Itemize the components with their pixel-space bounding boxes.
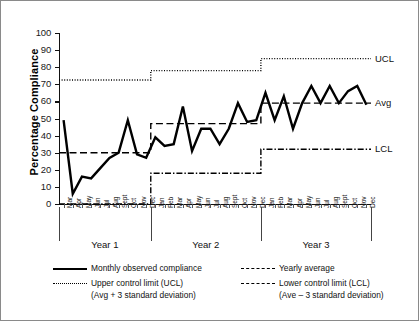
legend-swatch-dash-dot-icon xyxy=(241,280,275,288)
legend-item-label: Monthly observed compliance xyxy=(91,263,202,273)
legend-swatch-dashed-icon xyxy=(241,265,275,273)
x-tick-mark xyxy=(192,204,193,208)
chart-legend: Monthly observed complianceYearly averag… xyxy=(53,263,383,311)
x-tick-mark xyxy=(91,204,92,208)
year-group-label: Year 1 xyxy=(75,239,135,250)
x-tick-mark xyxy=(311,204,312,208)
x-tick-mark xyxy=(357,204,358,208)
x-tick-mark xyxy=(165,204,166,208)
legend-swatch-solid-icon xyxy=(53,265,87,273)
x-tick-mark xyxy=(210,204,211,208)
x-tick-mark xyxy=(330,204,331,208)
x-tick-mark xyxy=(229,204,230,208)
x-tick-mark xyxy=(302,204,303,208)
legend-item[interactable]: Upper control limit (UCL) xyxy=(53,278,183,288)
legend-item-label: Upper control limit (UCL) xyxy=(91,278,183,288)
x-tick-mark xyxy=(73,204,74,208)
right-annotation-lcl: LCL xyxy=(375,143,392,154)
year-group-separator xyxy=(261,207,262,241)
x-tick-mark xyxy=(155,204,156,208)
legend-swatch-dotted-icon xyxy=(53,280,87,288)
x-tick-mark xyxy=(238,204,239,208)
series-line-dash-dot xyxy=(59,149,371,204)
year-group-label: Year 3 xyxy=(286,239,346,250)
x-tick-mark xyxy=(275,204,276,208)
year-group-separator xyxy=(59,207,60,241)
x-tick-mark xyxy=(64,204,65,208)
series-line-dashed xyxy=(59,103,371,153)
chart-figure: Percentage Compliance 100908070605040302… xyxy=(0,0,419,321)
x-tick-mark xyxy=(293,204,294,208)
x-tick-mark xyxy=(321,204,322,208)
legend-item-sublabel: (Ave – 3 standard deviation) xyxy=(279,290,384,300)
x-tick-mark xyxy=(220,204,221,208)
x-tick-mark xyxy=(265,204,266,208)
x-tick-mark xyxy=(174,204,175,208)
x-tick-mark xyxy=(128,204,129,208)
legend-item[interactable]: Lower control limit (LCL) xyxy=(241,278,370,288)
legend-item-label: Lower control limit (LCL) xyxy=(279,278,370,288)
x-tick-mark xyxy=(247,204,248,208)
x-tick-mark xyxy=(339,204,340,208)
legend-item-label: Yearly average xyxy=(279,263,335,273)
series-line-solid xyxy=(64,86,367,194)
x-tick-mark xyxy=(256,204,257,208)
year-group-separator xyxy=(151,207,152,241)
x-tick-mark xyxy=(284,204,285,208)
year-group-separator xyxy=(371,207,372,241)
x-tick-mark xyxy=(137,204,138,208)
x-tick-mark xyxy=(119,204,120,208)
right-annotation-avg: Avg xyxy=(375,97,391,108)
x-tick-mark xyxy=(183,204,184,208)
year-group-label: Year 2 xyxy=(176,239,236,250)
x-tick-mark xyxy=(146,204,147,208)
x-tick-mark xyxy=(109,204,110,208)
legend-item-sublabel: (Avg + 3 standard deviation) xyxy=(91,290,196,300)
series-line-dotted xyxy=(59,59,371,80)
x-tick-mark xyxy=(100,204,101,208)
x-tick-mark xyxy=(348,204,349,208)
legend-item[interactable]: Yearly average xyxy=(241,263,335,273)
legend-item[interactable]: Monthly observed compliance xyxy=(53,263,202,273)
x-tick-mark xyxy=(82,204,83,208)
x-tick-mark xyxy=(366,204,367,208)
right-annotation-ucl: UCL xyxy=(375,53,394,64)
x-tick-mark xyxy=(201,204,202,208)
